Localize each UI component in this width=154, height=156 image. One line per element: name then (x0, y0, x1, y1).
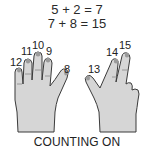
hands-illustration (0, 0, 154, 156)
left-ring-label: 11 (21, 46, 32, 57)
left-hand-icon (15, 52, 68, 133)
left-thumb-label: 8 (64, 64, 70, 75)
right-middle-label: 15 (119, 40, 131, 51)
caption: COUNTING ON (0, 135, 154, 149)
left-index-label: 9 (46, 46, 52, 57)
left-pinky-label: 12 (10, 57, 22, 68)
right-index-label: 14 (106, 47, 118, 58)
left-middle-label: 10 (32, 40, 44, 51)
right-thumb-label: 13 (88, 64, 100, 75)
